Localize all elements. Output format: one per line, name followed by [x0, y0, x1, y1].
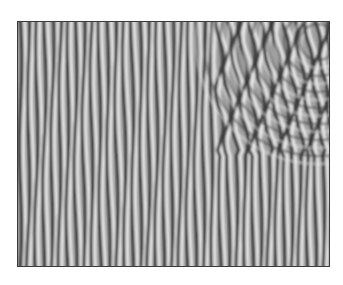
pattern-frame: [17, 21, 330, 267]
stripe-pattern: [18, 22, 330, 267]
